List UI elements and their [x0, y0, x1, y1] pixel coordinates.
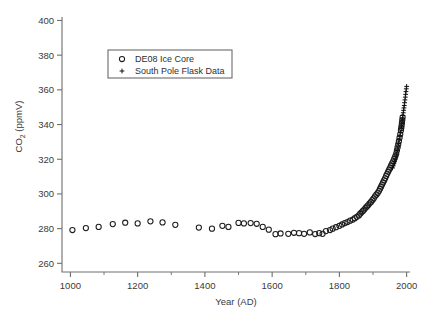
data-point-circle [135, 221, 140, 226]
data-point-circle [209, 226, 214, 231]
data-point-circle [296, 231, 301, 236]
y-tick-label: 260 [38, 258, 54, 269]
co2-scatter-chart: 2602803003203403603804001000120014001600… [0, 0, 434, 326]
data-point-circle [196, 225, 201, 230]
chart-canvas: 2602803003203403603804001000120014001600… [0, 0, 434, 326]
data-point-circle [260, 224, 265, 229]
data-point-circle [291, 230, 296, 235]
x-tick-label: 1800 [329, 280, 350, 291]
x-tick-label: 1400 [194, 280, 215, 291]
data-point-circle [173, 222, 178, 227]
data-point-circle [333, 225, 338, 230]
data-point-circle [254, 221, 259, 226]
y-tick-label: 340 [38, 119, 54, 130]
data-point-circle [266, 227, 271, 232]
x-tick-label: 1000 [60, 280, 81, 291]
data-point-circle [320, 231, 325, 236]
legend-label: DE08 Ice Core [135, 54, 194, 64]
data-point-circle [248, 220, 253, 225]
data-point-circle [83, 226, 88, 231]
x-tick-label: 1200 [127, 280, 148, 291]
y-axis-title: CO2 (ppmV) [13, 101, 26, 153]
data-point-circle [160, 220, 165, 225]
data-point-circle [110, 222, 115, 227]
y-tick-label: 360 [38, 84, 54, 95]
y-tick-label: 320 [38, 154, 54, 165]
legend-label: South Pole Flask Data [135, 66, 225, 76]
x-axis-title: Year (AD) [215, 296, 256, 307]
data-point-circle [301, 231, 306, 236]
data-point-circle [70, 227, 75, 232]
data-point-circle [273, 232, 278, 237]
data-point-circle [286, 231, 291, 236]
y-tick-label: 300 [38, 188, 54, 199]
y-tick-label: 380 [38, 50, 54, 61]
x-tick-label: 2000 [396, 280, 417, 291]
data-point-circle [278, 231, 283, 236]
data-point-circle [148, 219, 153, 224]
data-point-circle [123, 220, 128, 225]
data-point-circle [307, 230, 312, 235]
data-point-circle [236, 220, 241, 225]
y-tick-label: 280 [38, 223, 54, 234]
data-point-circle [96, 224, 101, 229]
data-point-circle [226, 224, 231, 229]
y-tick-label: 400 [38, 15, 54, 26]
data-point-circle [241, 221, 246, 226]
data-point-circle [220, 223, 225, 228]
x-tick-label: 1600 [262, 280, 283, 291]
